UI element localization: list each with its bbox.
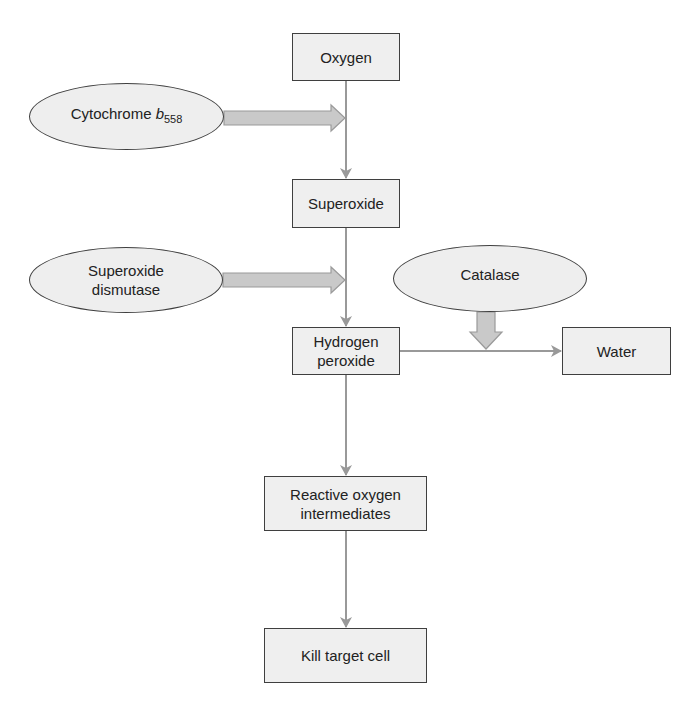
node-water-label: Water — [597, 342, 636, 361]
node-catalase: Catalase — [393, 245, 587, 312]
node-roi-line1: Reactive oxygen — [290, 485, 401, 504]
node-superoxide-dismutase: Superoxide dismutase — [29, 247, 223, 313]
node-roi-line2: intermediates — [300, 504, 390, 523]
catalyst-arrow-cytochrome — [224, 105, 345, 131]
node-cytochrome-b558: Cytochrome b558 — [29, 83, 224, 150]
node-sod-line1: Superoxide — [88, 261, 164, 280]
node-oxygen-label: Oxygen — [320, 48, 372, 67]
node-hydrogen-peroxide-line1: Hydrogen — [313, 332, 378, 351]
cytochrome-italic: b — [156, 105, 164, 122]
catalyst-arrow-catalase — [470, 312, 502, 349]
node-reactive-oxygen-intermediates: Reactive oxygen intermediates — [264, 476, 427, 531]
cytochrome-text: Cytochrome — [71, 105, 156, 122]
node-kill-target-cell: Kill target cell — [264, 628, 427, 683]
node-hydrogen-peroxide-line2: peroxide — [317, 351, 375, 370]
node-sod-line2: dismutase — [92, 280, 160, 299]
node-kill-label: Kill target cell — [301, 646, 390, 665]
node-water: Water — [562, 327, 671, 375]
node-catalase-label: Catalase — [460, 265, 519, 284]
cytochrome-subscript: 558 — [164, 113, 182, 125]
node-superoxide: Superoxide — [292, 179, 400, 228]
node-hydrogen-peroxide: Hydrogen peroxide — [292, 327, 400, 375]
catalyst-arrow-sod — [223, 267, 345, 293]
node-superoxide-label: Superoxide — [308, 194, 384, 213]
node-cytochrome-label: Cytochrome b558 — [71, 104, 183, 129]
node-oxygen: Oxygen — [292, 33, 400, 81]
